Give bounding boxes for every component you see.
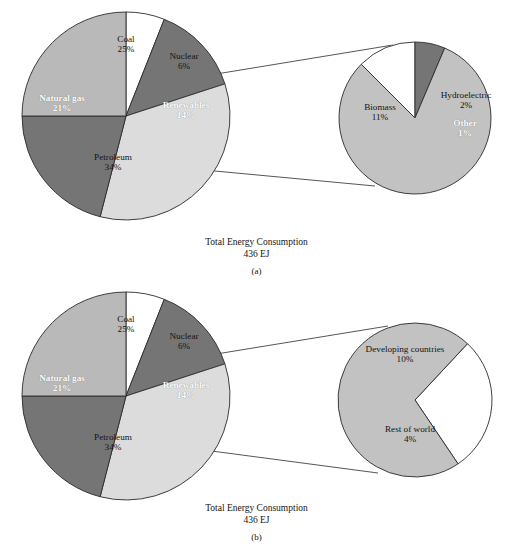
figure-panel-a: Nuclear6%Renewables14%Petroleum34%Natura… xyxy=(0,0,513,280)
figure-panel-b: Nuclear6%Renewables14%Petroleum34%Natura… xyxy=(0,280,513,560)
caption-b-value: 436 EJ xyxy=(0,514,513,526)
caption-a-title: Total Energy Consumption xyxy=(0,236,513,248)
panel-b-connector-2 xyxy=(204,450,378,473)
panel-a-main-slice-coal xyxy=(22,12,126,116)
caption-a-value: 436 EJ xyxy=(0,248,513,260)
panel-a-connector-2 xyxy=(204,170,375,186)
caption-b: Total Energy Consumption 436 EJ xyxy=(0,502,513,526)
caption-a: Total Energy Consumption 436 EJ xyxy=(0,236,513,260)
panel-letter-b: (b) xyxy=(0,532,513,542)
panel-letter-a: (a) xyxy=(0,266,513,276)
caption-b-title: Total Energy Consumption xyxy=(0,502,513,514)
panel-b-main-slice-coal xyxy=(22,292,126,396)
